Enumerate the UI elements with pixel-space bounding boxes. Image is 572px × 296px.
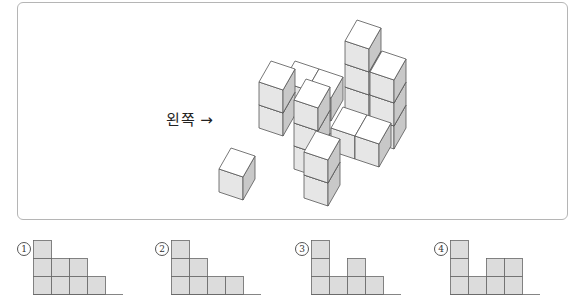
grid-square xyxy=(312,241,330,259)
grid-square xyxy=(172,277,190,295)
grid-square xyxy=(348,277,366,295)
grid-square xyxy=(172,259,190,277)
grid-square xyxy=(34,277,52,295)
grid-square xyxy=(172,241,190,259)
option-number: 2 xyxy=(155,242,169,256)
grid-square xyxy=(469,277,487,295)
option-number: 3 xyxy=(295,242,309,256)
arrow-right-icon: → xyxy=(200,111,213,129)
grid-square xyxy=(366,277,384,295)
grid-square xyxy=(34,241,52,259)
grid-square xyxy=(226,277,244,295)
grid-square xyxy=(505,259,523,277)
grid-square xyxy=(451,241,469,259)
side-view-grid xyxy=(311,240,421,296)
left-direction-text: 왼쪽 xyxy=(166,111,195,129)
grid-square xyxy=(312,259,330,277)
grid-square xyxy=(190,259,208,277)
grid-square xyxy=(312,277,330,295)
grid-square xyxy=(52,259,70,277)
left-direction-label: 왼쪽 → xyxy=(166,108,213,129)
grid-square xyxy=(70,277,88,295)
grid-square xyxy=(208,277,226,295)
grid-square xyxy=(451,259,469,277)
grid-square xyxy=(190,277,208,295)
grid-square xyxy=(52,277,70,295)
side-view-grid xyxy=(33,240,143,296)
grid-square xyxy=(505,277,523,295)
side-view-grid xyxy=(171,240,281,296)
grid-square xyxy=(88,277,106,295)
option-number: 4 xyxy=(434,242,448,256)
grid-square xyxy=(330,277,348,295)
option-number: 1 xyxy=(17,242,31,256)
grid-square xyxy=(451,277,469,295)
grid-square xyxy=(487,277,505,295)
grid-square xyxy=(34,259,52,277)
answer-option-2[interactable]: 2 xyxy=(155,238,285,296)
grid-square xyxy=(487,259,505,277)
answer-option-1[interactable]: 1 xyxy=(17,238,147,296)
side-view-grid xyxy=(450,240,560,296)
grid-square xyxy=(348,259,366,277)
answer-option-4[interactable]: 4 xyxy=(434,238,564,296)
grid-square xyxy=(70,259,88,277)
answer-option-3[interactable]: 3 xyxy=(295,238,425,296)
